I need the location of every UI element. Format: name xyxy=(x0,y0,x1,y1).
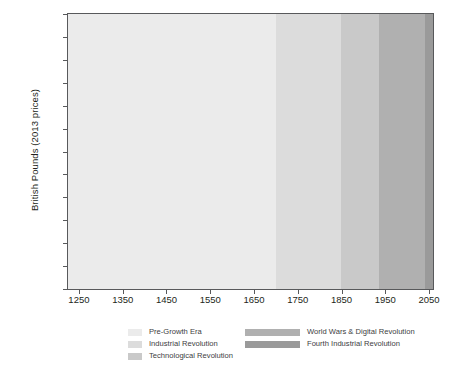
legend-swatch-icon xyxy=(245,329,300,336)
legend-label: World Wars & Digital Revolution xyxy=(307,327,415,338)
legend-label: Pre-Growth Era xyxy=(149,327,202,338)
x-tick-label-2050: 2050 xyxy=(399,294,451,305)
plot-area xyxy=(67,13,434,290)
x-tick-mark xyxy=(298,290,299,294)
legend-swatch-icon xyxy=(128,341,142,348)
era-band-3 xyxy=(379,14,425,289)
legend-item-right-0[interactable]: World Wars & Digital Revolution xyxy=(245,327,415,338)
x-tick-mark xyxy=(342,290,343,294)
chart-figure: British Pounds (2013 prices) 02500500075… xyxy=(0,0,451,371)
legend-label: Industrial Revolution xyxy=(149,339,218,350)
legend-item-left-2[interactable]: Technological Revolution xyxy=(128,351,233,362)
legend-label: Fourth Industrial Revolution xyxy=(307,339,400,350)
legend-swatch-icon xyxy=(245,341,300,348)
x-tick-mark xyxy=(79,290,80,294)
era-band-0 xyxy=(68,14,276,289)
x-tick-mark xyxy=(385,290,386,294)
legend-swatch-icon xyxy=(128,353,142,360)
y-axis-label: British Pounds (2013 prices) xyxy=(29,20,45,280)
legend-left-column: Pre-Growth EraIndustrial RevolutionTechn… xyxy=(128,327,233,363)
legend-item-left-0[interactable]: Pre-Growth Era xyxy=(128,327,233,338)
legend-right-column: World Wars & Digital RevolutionFourth In… xyxy=(245,327,415,351)
era-band-1 xyxy=(276,14,341,289)
x-tick-mark xyxy=(210,290,211,294)
x-tick-mark xyxy=(254,290,255,294)
x-tick-mark xyxy=(429,290,430,294)
x-tick-mark xyxy=(166,290,167,294)
chart-legend: Pre-Growth EraIndustrial RevolutionTechn… xyxy=(0,327,451,369)
x-tick-mark xyxy=(123,290,124,294)
legend-item-left-1[interactable]: Industrial Revolution xyxy=(128,339,233,350)
era-band-2 xyxy=(341,14,379,289)
legend-label: Technological Revolution xyxy=(149,351,233,362)
era-band-4 xyxy=(425,14,433,289)
legend-swatch-icon xyxy=(128,329,142,336)
legend-item-right-1[interactable]: Fourth Industrial Revolution xyxy=(245,339,415,350)
